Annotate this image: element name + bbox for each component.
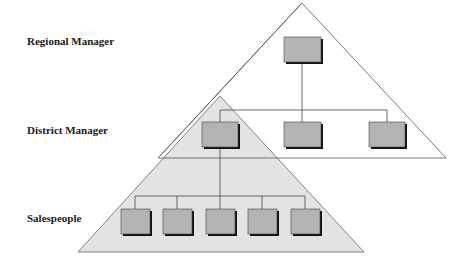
- salesperson-box: [206, 209, 237, 236]
- regional-manager-box: [284, 37, 323, 64]
- salesperson-box: [291, 209, 322, 236]
- district-manager-box: [284, 122, 323, 149]
- salesperson-box: [121, 209, 152, 236]
- salesperson-box: [163, 209, 194, 236]
- salesperson-box: [248, 209, 279, 236]
- district-manager-box: [369, 122, 407, 149]
- district-manager-box: [202, 122, 240, 149]
- org-diagram: [0, 0, 466, 266]
